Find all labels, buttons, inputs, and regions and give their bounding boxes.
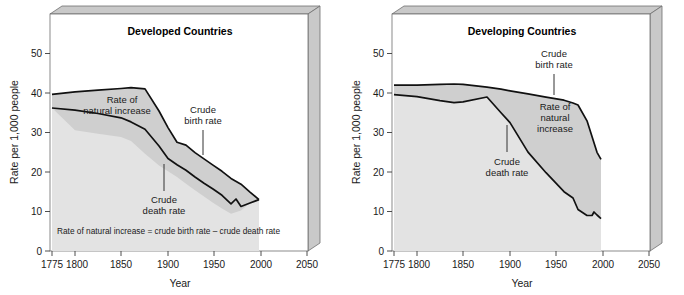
- y-tick-10: 10: [373, 206, 385, 217]
- y-axis-title: Rate per 1,000 people: [350, 80, 362, 184]
- annotation-birth-rate-line2: birth rate: [184, 115, 222, 126]
- x-tick-1950: 1950: [545, 259, 568, 270]
- y-axis-title: Rate per 1,000 people: [8, 80, 20, 184]
- y-tick-0: 0: [36, 246, 42, 257]
- x-tick-1900: 1900: [157, 259, 180, 270]
- annotation-death-rate-line2: death rate: [486, 167, 529, 178]
- developed-countries-chart: 0 10 20 30 40 50 1775 1800 1850 1900 195…: [0, 0, 342, 295]
- y-tick-20: 20: [31, 167, 43, 178]
- x-axis-title: Year: [169, 277, 191, 289]
- annotation-birth-rate-line2: birth rate: [535, 59, 573, 70]
- x-tick-2000: 2000: [250, 259, 273, 270]
- y-tick-40: 40: [373, 88, 385, 99]
- x-axis-title: Year: [511, 277, 533, 289]
- box-top-face: [50, 6, 320, 14]
- y-tick-50: 50: [373, 48, 385, 59]
- demographic-transition-figure: 0 10 20 30 40 50 1775 1800 1850 1900 195…: [0, 0, 684, 295]
- y-axis-ticks: [45, 54, 50, 252]
- panel-title: Developing Countries: [468, 25, 577, 37]
- x-tick-1800: 1800: [66, 259, 89, 270]
- box-top-face: [392, 6, 662, 14]
- annotation-natural-increase-line2: natural increase: [83, 105, 151, 116]
- annotation-birth-rate-line1: Crude: [190, 104, 216, 115]
- x-tick-1900: 1900: [499, 259, 522, 270]
- x-tick-1950: 1950: [203, 259, 226, 270]
- y-tick-20: 20: [373, 167, 385, 178]
- annotation-natural-increase-line2: natural: [540, 112, 569, 123]
- x-tick-1850: 1850: [110, 259, 133, 270]
- annotation-death-rate-line2: death rate: [143, 205, 186, 216]
- footnote-formula: Rate of natural increase = crude birth r…: [57, 226, 280, 236]
- x-axis-ticks: [52, 251, 307, 256]
- y-tick-50: 50: [31, 48, 43, 59]
- y-tick-30: 30: [31, 127, 43, 138]
- y-tick-0: 0: [378, 246, 384, 257]
- box-right-face: [650, 6, 662, 251]
- y-axis-ticks: [387, 54, 392, 252]
- panel-developed-countries: 0 10 20 30 40 50 1775 1800 1850 1900 195…: [0, 0, 342, 295]
- annotation-natural-increase-line1: Rate of: [107, 94, 138, 105]
- x-tick-1850: 1850: [452, 259, 475, 270]
- developing-countries-chart: 0 10 20 30 40 50 1775 1800 1850 1900 195…: [342, 0, 684, 295]
- annotation-birth-rate-line1: Crude: [541, 48, 567, 59]
- x-axis-ticks: [394, 251, 649, 256]
- x-tick-1800: 1800: [408, 259, 431, 270]
- panel-title: Developed Countries: [127, 25, 232, 37]
- x-tick-2000: 2000: [592, 259, 615, 270]
- x-tick-2050: 2050: [638, 259, 661, 270]
- annotation-natural-increase-line1: Rate of: [540, 101, 571, 112]
- annotation-death-rate-line1: Crude: [494, 156, 520, 167]
- x-tick-1775: 1775: [383, 259, 406, 270]
- y-tick-10: 10: [31, 206, 43, 217]
- y-tick-30: 30: [373, 127, 385, 138]
- annotation-natural-increase-line3: increase: [537, 123, 573, 134]
- x-tick-2050: 2050: [296, 259, 319, 270]
- panel-developing-countries: 0 10 20 30 40 50 1775 1800 1850 1900 195…: [342, 0, 684, 295]
- annotation-death-rate-line1: Crude: [151, 194, 177, 205]
- y-tick-40: 40: [31, 88, 43, 99]
- box-right-face: [308, 6, 320, 251]
- x-tick-1775: 1775: [41, 259, 64, 270]
